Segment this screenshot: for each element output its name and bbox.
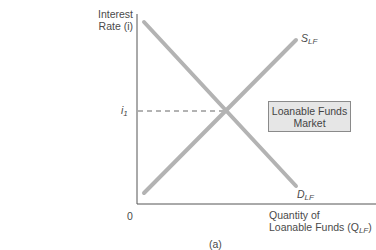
market-box-line1: Loanable Funds — [269, 105, 350, 117]
market-box-line2: Market — [269, 117, 350, 129]
x-axis-label-line1: Quantity of — [269, 209, 372, 221]
y-axis-label-line1: Interest — [97, 8, 133, 20]
y-axis-label: Interest Rate (i) — [97, 8, 133, 32]
x-axis-label: Quantity of Loanable Funds (QLF) — [269, 209, 372, 237]
market-box: Loanable Funds Market — [268, 101, 351, 132]
demand-label: DLF — [297, 188, 314, 204]
x-axis-label-line2: Loanable Funds (QLF) — [269, 221, 372, 237]
equilibrium-rate-label: i1 — [121, 104, 128, 120]
caption: (a) — [209, 238, 222, 250]
y-axis-label-line2: Rate (i) — [97, 20, 133, 32]
supply-label: SLF — [301, 32, 317, 48]
origin-label: 0 — [127, 210, 133, 222]
